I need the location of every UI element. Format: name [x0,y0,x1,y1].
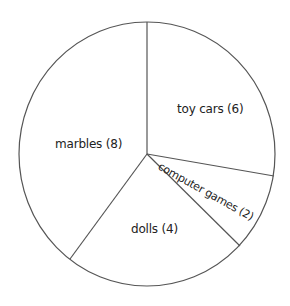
slice-label-toy-cars: toy cars (6) [177,102,244,116]
pie-chart: toy cars (6) computer games (2) dolls (4… [0,0,290,306]
slice-label-dolls: dolls (4) [131,222,178,236]
slice-label-marbles: marbles (8) [55,137,122,151]
pie-chart-graphic [0,0,290,306]
